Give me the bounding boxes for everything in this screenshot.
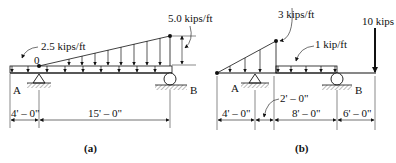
support-b-label: B: [190, 84, 197, 96]
uniform-load-label-a: 2.5 kips/ft: [41, 40, 86, 52]
support-a-label-b: A: [231, 82, 239, 94]
peak-dot-b: [274, 39, 278, 43]
figure-b: 3 kips/ft 1 kip/ft 10 kips A B: [215, 8, 394, 155]
peak-dot-a: [168, 34, 172, 38]
figure-a: 5.0 kips/ft 2.5 kips/ft 0 A B 4' – 0" 15…: [10, 12, 213, 155]
beam-diagrams: 5.0 kips/ft 2.5 kips/ft 0 A B 4' – 0" 15…: [0, 0, 396, 163]
triangular-load-b: [217, 41, 276, 73]
pin-support-a: [33, 74, 45, 83]
dim-b-4: 6' – 0": [343, 107, 371, 119]
peak-load-label-a: 5.0 kips/ft: [168, 12, 213, 24]
dim-a-2: 15' – 0": [88, 107, 122, 119]
uniform-load-b: [276, 66, 337, 73]
start-dot-b: [215, 71, 219, 75]
point-load-label: 10 kips: [362, 15, 394, 27]
caption-a: (a): [84, 142, 97, 155]
roller-support-b-b: [331, 73, 343, 85]
uniform-load-arrows-b: [278, 66, 335, 72]
pin-support-a-b: [249, 74, 261, 83]
point-0-label: 0: [34, 54, 40, 66]
dim-b-3: 8' – 0": [292, 107, 320, 119]
dim-a-1: 4' – 0": [11, 107, 39, 119]
support-a-label: A: [13, 84, 21, 96]
uniform-load-label-b: 1 kip/ft: [315, 38, 347, 50]
caption-b: (b): [295, 142, 309, 155]
dim-b-1: 4' – 0": [222, 107, 250, 119]
triangular-load-label-b: 3 kips/ft: [278, 8, 314, 20]
uniform-load-a: [10, 66, 172, 73]
dim-b-2: 2' – 0": [280, 92, 308, 104]
uniform-load-arrows-a: [12, 66, 155, 72]
triangular-load-arrows-b: [230, 50, 260, 72]
roller-support-b: [164, 73, 176, 85]
support-b-label-b: B: [355, 84, 362, 96]
